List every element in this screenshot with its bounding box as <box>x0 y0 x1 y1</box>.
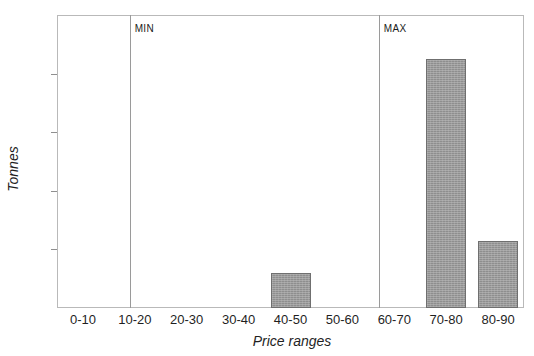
reference-line-label-min: MIN <box>135 23 155 34</box>
x-tick-label: 10-20 <box>109 312 161 327</box>
bar-80-90 <box>478 241 518 308</box>
x-tick-label: 70-80 <box>420 312 472 327</box>
histogram-figure: 020406080100 Tonnes MINMAX 0-1010-2020-3… <box>0 0 534 356</box>
x-axis-title: Price ranges <box>0 333 534 349</box>
bar-70-80 <box>426 59 466 308</box>
bar-40-50 <box>271 273 311 308</box>
reference-line-min <box>130 15 131 308</box>
x-tick-label: 30-40 <box>213 312 265 327</box>
reference-line-max <box>379 15 380 308</box>
y-axis-title: Tonnes <box>5 134 21 204</box>
x-tick-label: 60-70 <box>368 312 420 327</box>
x-tick-label: 40-50 <box>265 312 317 327</box>
x-tick-label: 80-90 <box>472 312 524 327</box>
x-tick-label: 50-60 <box>316 312 368 327</box>
x-tick-label: 0-10 <box>57 312 109 327</box>
reference-line-label-max: MAX <box>384 23 407 34</box>
x-tick-label: 20-30 <box>161 312 213 327</box>
